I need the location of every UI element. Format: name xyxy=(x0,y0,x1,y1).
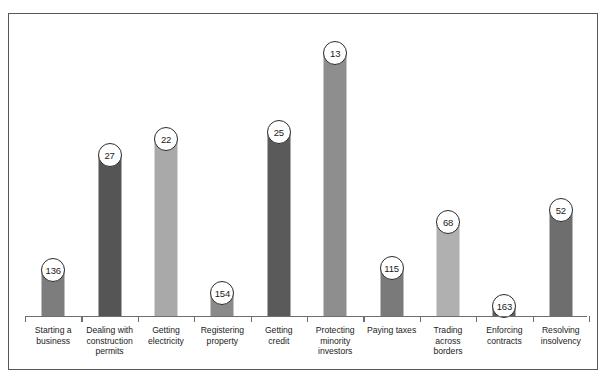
category-label: Dealing withconstructionpermits xyxy=(81,325,137,357)
bar[interactable] xyxy=(98,156,121,316)
bar-slot: 68 xyxy=(420,18,476,316)
bar-slot: 52 xyxy=(533,18,589,316)
bar-value-bubble: 13 xyxy=(323,41,347,65)
bar-value-bubble: 27 xyxy=(98,143,122,167)
category-label-line: insolvency xyxy=(533,336,589,347)
bar[interactable] xyxy=(154,140,177,316)
category-label: Resolvinginsolvency xyxy=(533,325,589,346)
category-label-line: Protecting xyxy=(307,325,363,336)
plot-area: 136272215425131156816352 Starting abusin… xyxy=(25,18,587,369)
category-labels-region: Starting abusinessDealing withconstructi… xyxy=(25,325,587,373)
category-label: Gettingcredit xyxy=(251,325,307,346)
axis-tick xyxy=(533,316,534,322)
category-label-line: Registering xyxy=(194,325,250,336)
bar-value-bubble: 25 xyxy=(267,120,291,144)
category-label-line: Enforcing xyxy=(476,325,532,336)
category-label-line: Getting xyxy=(251,325,307,336)
category-label-line: business xyxy=(25,336,81,347)
category-label: Registeringproperty xyxy=(194,325,250,346)
bar-slot: 13 xyxy=(307,18,363,316)
category-label: Protectingminorityinvestors xyxy=(307,325,363,357)
chart-frame: 136272215425131156816352 Starting abusin… xyxy=(8,13,598,370)
category-label-line: Paying taxes xyxy=(363,325,419,336)
bar-value-bubble: 22 xyxy=(154,127,178,151)
category-label-line: electricity xyxy=(138,336,194,347)
bar[interactable] xyxy=(324,54,347,316)
bar-value-bubble: 115 xyxy=(380,256,404,280)
axis-tick xyxy=(589,316,590,322)
bar[interactable] xyxy=(267,133,290,316)
category-label-line: minority xyxy=(307,336,363,347)
axis-tick xyxy=(420,316,421,322)
category-label-line: Dealing with xyxy=(81,325,137,336)
category-label-line: investors xyxy=(307,346,363,357)
category-label: Enforcingcontracts xyxy=(476,325,532,346)
bar-slot: 136 xyxy=(25,18,81,316)
category-label-line: property xyxy=(194,336,250,347)
category-label: Tradingacrossborders xyxy=(420,325,476,357)
category-label-line: credit xyxy=(251,336,307,347)
x-axis-line xyxy=(25,316,587,317)
category-label-line: permits xyxy=(81,346,137,357)
category-label: Starting abusiness xyxy=(25,325,81,346)
bar-value-bubble: 163 xyxy=(492,294,516,318)
category-label-line: construction xyxy=(81,336,137,347)
bar-value-bubble: 136 xyxy=(41,258,65,282)
bars-region: 136272215425131156816352 xyxy=(25,18,587,316)
category-label-line: Resolving xyxy=(533,325,589,336)
bar-slot: 115 xyxy=(363,18,419,316)
axis-tick xyxy=(476,316,477,322)
bar-slot: 163 xyxy=(476,18,532,316)
category-label-line: Trading xyxy=(420,325,476,336)
bar-slot: 22 xyxy=(138,18,194,316)
category-label: Paying taxes xyxy=(363,325,419,336)
bar-slot: 27 xyxy=(81,18,137,316)
bar-value-bubble: 52 xyxy=(549,198,573,222)
category-label-line: across xyxy=(420,336,476,347)
axis-tick xyxy=(251,316,252,322)
category-label: Gettingelectricity xyxy=(138,325,194,346)
category-label-line: contracts xyxy=(476,336,532,347)
bar-value-bubble: 68 xyxy=(436,210,460,234)
bar-slot: 25 xyxy=(251,18,307,316)
category-label-line: Starting a xyxy=(25,325,81,336)
bar-slot: 154 xyxy=(194,18,250,316)
axis-tick xyxy=(307,316,308,322)
axis-tick xyxy=(138,316,139,322)
bar[interactable] xyxy=(549,211,572,316)
category-label-line: Getting xyxy=(138,325,194,336)
bar[interactable] xyxy=(436,223,459,316)
axis-tick xyxy=(194,316,195,322)
axis-tick xyxy=(363,316,364,322)
bar-value-bubble: 154 xyxy=(210,281,234,305)
axis-tick xyxy=(81,316,82,322)
category-label-line: borders xyxy=(420,346,476,357)
axis-tick xyxy=(25,316,26,322)
